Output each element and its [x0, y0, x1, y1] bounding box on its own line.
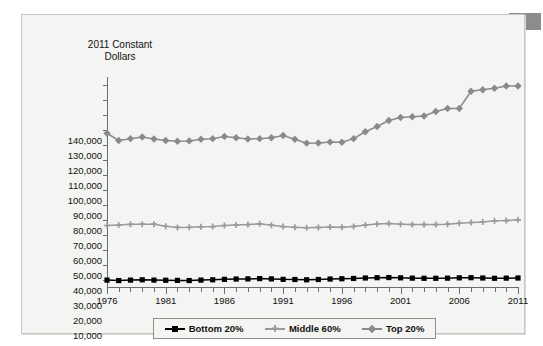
series-marker: [339, 224, 345, 230]
series-marker: [468, 275, 473, 280]
series-marker: [445, 276, 450, 281]
series-marker: [291, 136, 298, 143]
series-marker: [104, 223, 110, 229]
series-marker: [257, 221, 263, 227]
series-marker: [210, 224, 216, 230]
series-marker: [492, 276, 497, 281]
series-marker: [244, 135, 251, 142]
series-marker: [444, 105, 451, 112]
series-marker: [421, 276, 426, 281]
series-marker: [222, 277, 227, 282]
series-marker: [103, 130, 110, 137]
chart-legend: Bottom 20% Middle 60% Top 20%: [153, 318, 436, 339]
series-marker: [433, 222, 439, 228]
series-marker: [491, 85, 498, 92]
legend-item-top[interactable]: Top 20%: [362, 323, 424, 334]
series-marker: [480, 275, 485, 280]
series-marker: [221, 223, 227, 229]
series-marker: [386, 221, 392, 227]
series-marker: [209, 135, 216, 142]
series-marker: [480, 219, 486, 225]
series-marker: [351, 276, 356, 281]
series-marker: [257, 276, 262, 281]
series-marker: [187, 278, 192, 283]
series-marker: [221, 133, 228, 140]
series-marker: [174, 138, 181, 145]
series-marker: [281, 277, 286, 282]
legend-marker-square-icon: [165, 324, 185, 333]
series-marker: [104, 278, 109, 283]
series-marker: [256, 135, 263, 142]
series-marker: [303, 139, 310, 146]
series-marker: [304, 225, 310, 231]
series-marker: [279, 132, 286, 139]
series-marker: [269, 276, 274, 281]
series-marker: [503, 82, 510, 89]
series-marker: [409, 113, 416, 120]
series-marker: [504, 276, 509, 281]
chart-screenshot: 2011 Constant Dollars 140,000130,000120,…: [0, 0, 543, 346]
series-marker: [245, 276, 250, 281]
series-marker: [197, 136, 204, 143]
series-marker: [140, 277, 145, 282]
legend-label-top: Top 20%: [386, 323, 424, 334]
series-marker: [420, 112, 427, 119]
series-marker: [432, 108, 439, 115]
series-marker: [127, 135, 134, 142]
series-marker: [174, 224, 180, 230]
series-marker: [315, 139, 322, 146]
series-marker: [163, 223, 169, 229]
series-marker: [514, 82, 521, 89]
series-marker: [515, 275, 520, 280]
legend-item-bottom[interactable]: Bottom 20%: [165, 323, 244, 334]
series-marker: [150, 135, 157, 142]
series-marker: [362, 222, 368, 228]
series-marker: [128, 278, 133, 283]
legend-label-bottom: Bottom 20%: [189, 323, 244, 334]
series-marker: [198, 278, 203, 283]
series-marker: [373, 123, 380, 130]
series-marker: [397, 114, 404, 121]
series-marker: [374, 221, 380, 227]
series-marker: [232, 134, 239, 141]
series-marker: [351, 223, 357, 229]
series-marker: [116, 278, 121, 283]
series-marker: [186, 224, 192, 230]
series-marker: [198, 224, 204, 230]
series-marker: [292, 277, 297, 282]
series-marker: [316, 277, 321, 282]
series-marker: [292, 224, 298, 230]
series-marker: [127, 221, 133, 227]
series-marker: [304, 277, 309, 282]
series-marker: [398, 275, 403, 280]
series-marker: [410, 276, 415, 281]
series-marker: [328, 276, 333, 281]
series-marker: [338, 139, 345, 146]
series-marker: [327, 224, 333, 230]
series-marker: [315, 224, 321, 230]
series-marker: [139, 221, 145, 227]
series-marker: [268, 222, 274, 228]
legend-item-middle[interactable]: Middle 60%: [265, 323, 341, 334]
series-marker: [350, 135, 357, 142]
series-marker: [151, 221, 157, 227]
series-marker: [210, 277, 215, 282]
series-marker: [433, 276, 438, 281]
series-marker: [233, 222, 239, 228]
series-marker: [115, 137, 122, 144]
series-marker: [326, 138, 333, 145]
series-marker: [175, 278, 180, 283]
series-marker: [139, 133, 146, 140]
series-marker: [398, 221, 404, 227]
series-marker: [503, 218, 509, 224]
series-marker: [468, 220, 474, 226]
series-marker: [515, 217, 521, 223]
series-marker: [479, 86, 486, 93]
series-marker: [163, 278, 168, 283]
legend-marker-diamond-icon: [362, 324, 382, 333]
series-marker: [162, 137, 169, 144]
series-marker: [186, 137, 193, 144]
series-marker: [385, 117, 392, 124]
series-marker: [492, 218, 498, 224]
series-marker: [456, 220, 462, 226]
